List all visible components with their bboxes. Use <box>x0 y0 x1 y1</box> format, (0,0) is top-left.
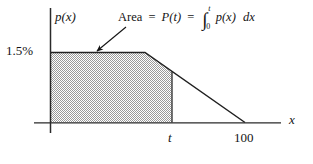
annotation-equals-first: = <box>148 10 155 24</box>
x-axis-tick-label-100: 100 <box>234 131 254 144</box>
area-annotation: Area = P(t) = ∫ t 0 p(x) dx <box>118 9 255 28</box>
annotation-function-name: P(t) <box>162 10 181 24</box>
integrand-expression: p(x) <box>216 10 236 24</box>
x-axis-label: x <box>289 113 295 126</box>
integral-upper-limit: t <box>208 5 210 13</box>
annotation-area-word: Area <box>118 10 142 24</box>
shaded-area-region <box>51 53 172 123</box>
y-axis-label: p(x) <box>55 10 76 23</box>
integral-expression: ∫ t 0 <box>202 9 207 28</box>
annotation-equals-second: = <box>187 10 194 24</box>
annotation-arrow <box>97 27 126 51</box>
y-axis-tick-label: 1.5% <box>6 44 33 57</box>
x-axis-tick-label-t: t <box>168 131 172 144</box>
differential-expression: dx <box>243 10 255 24</box>
integral-lower-limit: 0 <box>206 23 210 31</box>
